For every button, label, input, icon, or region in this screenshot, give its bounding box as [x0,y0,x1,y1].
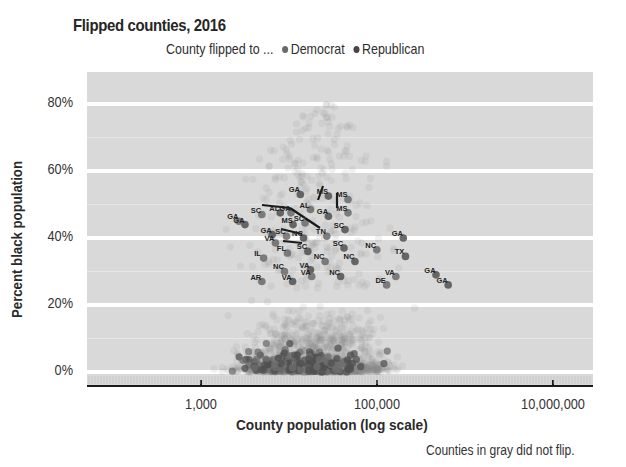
data-point [358,336,365,343]
data-point [309,333,316,340]
data-point [362,158,369,165]
flipped-point [263,340,270,347]
flipped-point [333,355,340,362]
state-label: NC [344,252,355,261]
data-point [219,364,226,371]
data-point [242,175,249,182]
data-point [267,147,274,154]
data-point [249,176,256,183]
y-tick-label: 0% [38,362,73,378]
data-point [317,165,324,172]
state-label: SC [297,242,308,251]
data-point [374,348,381,355]
data-point [223,226,230,233]
state-label: MS [281,216,292,225]
data-point [367,317,374,324]
data-point [316,312,323,319]
data-point [211,365,218,372]
data-point [314,284,321,291]
state-label: SC [275,227,286,236]
data-point [256,156,263,163]
data-point [251,339,258,346]
data-point [331,103,338,110]
data-point [335,125,342,132]
data-point [276,173,283,180]
x-tick-label: 100,000 [354,396,400,412]
flipped-point [286,340,293,347]
flipped-point [289,364,296,371]
state-label: GA [317,207,329,216]
flipped-point [254,349,261,356]
flipped-point [305,356,312,363]
data-point [250,332,257,339]
data-point [411,304,418,311]
state-label: SC [294,214,305,223]
state-label: FL [277,244,287,253]
state-label: NC [365,241,376,250]
y-tick-label: 40% [38,228,73,244]
flipped-point [325,354,332,361]
state-label: DE [375,276,385,285]
data-point [246,242,253,249]
state-label: VA [385,268,395,277]
data-point [313,263,320,270]
data-point [265,163,272,170]
state-label: VA [265,234,275,243]
data-point [349,166,356,173]
data-point [342,175,349,182]
data-point [311,142,318,149]
data-point [318,146,325,153]
data-point [348,244,355,251]
data-point [296,136,303,143]
data-point [309,135,316,142]
data-point [269,311,276,318]
data-point [357,249,364,256]
data-point [383,163,390,170]
flipped-point [239,357,246,364]
state-label: TN [316,227,326,236]
state-label: AL [269,204,279,213]
x-tick-label: 1,000 [185,396,217,412]
y-tick-label: 20% [38,295,73,311]
data-point [324,147,331,154]
data-point [354,327,361,334]
data-point [249,263,256,270]
data-point [286,153,293,160]
data-point [354,238,361,245]
flipped-point [380,360,387,367]
data-point [377,314,384,321]
data-point [341,316,348,323]
data-point [323,322,330,329]
data-point [285,164,292,171]
data-point [303,318,310,325]
data-point [356,199,363,206]
data-point [352,213,359,220]
state-label: NC [329,268,340,277]
data-point [394,353,401,360]
state-label: NC [273,262,284,271]
data-point [248,297,255,304]
data-point [237,262,244,269]
flipped-point [384,348,391,355]
state-label: GA [279,204,291,213]
state-label: IL [254,249,261,258]
flipped-point [278,367,285,374]
state-label: AL [299,201,309,210]
data-point [293,284,300,291]
x-tick-label: 10,000,000 [521,396,585,412]
data-point [372,364,379,371]
data-point [344,281,351,288]
data-point [320,109,327,116]
flipped-point [357,363,364,370]
y-tick-label: 60% [38,161,73,177]
flipped-point [261,361,268,368]
data-point [315,173,322,180]
data-point [335,316,342,323]
data-point [295,308,302,315]
data-point [305,124,312,131]
data-point [313,106,320,113]
flipped-point [298,360,305,367]
data-point [279,191,286,198]
data-point [358,344,365,351]
state-label: GA [392,229,404,238]
